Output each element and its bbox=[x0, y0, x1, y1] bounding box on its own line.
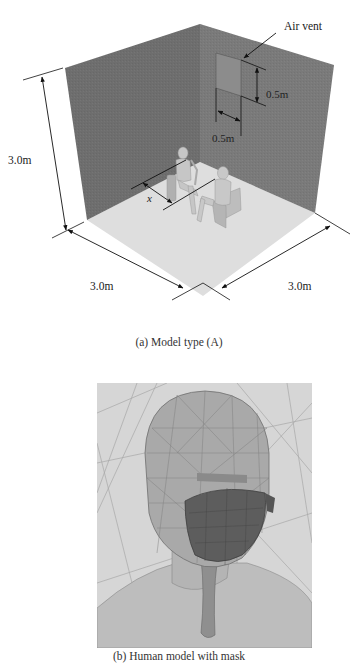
left-depth-label: 3.0m bbox=[90, 280, 113, 292]
right-depth-label: 3.0m bbox=[288, 280, 311, 292]
caption-b: (b) Human model with mask bbox=[0, 650, 358, 662]
distance-x-label: x bbox=[146, 192, 152, 204]
human-mesh-model bbox=[97, 383, 312, 648]
caption-a: (a) Model type (A) bbox=[0, 336, 358, 348]
airway bbox=[201, 558, 217, 638]
vent-height-label: 0.5m bbox=[266, 88, 289, 100]
room-model-diagram: Air vent 0.5m 0.5m 3.0m 3.0m 3.0m bbox=[0, 0, 358, 330]
room-height-label: 3.0m bbox=[8, 154, 31, 166]
air-vent-label: Air vent bbox=[284, 20, 323, 32]
vent-width-label: 0.5m bbox=[212, 132, 235, 144]
